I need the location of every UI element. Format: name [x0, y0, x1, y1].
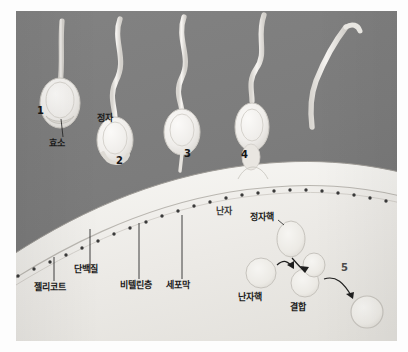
label-sperm: 정자: [97, 114, 113, 123]
label-cell-membrane: 세포막: [166, 281, 190, 290]
label-vitelline-layer: 비텔린층: [120, 281, 152, 290]
figure-screenshot: 1 효소 정자 2 3 4 난자 젤리코트 단백질 비텔린층 세포막 정자핵 난…: [0, 0, 408, 352]
label-protein: 단백질: [74, 265, 98, 274]
step-number-1: 1: [37, 106, 44, 116]
label-egg-nucleus: 난자핵: [238, 293, 262, 302]
fertilization-diagram-svg: [16, 11, 397, 341]
zygote-nucleus-circle: [351, 296, 383, 328]
sperm-nucleus-circle: [277, 221, 305, 257]
label-fusion: 결합: [290, 303, 306, 312]
label-enzyme: 효소: [49, 139, 65, 148]
sperm-3-acrosomal-process: [180, 153, 182, 171]
label-jelly-coat: 젤리코트: [34, 283, 66, 292]
step-number-4: 4: [241, 150, 248, 160]
label-egg: 난자: [216, 207, 232, 216]
step-number-2: 2: [116, 156, 123, 166]
label-sperm-nucleus: 정자핵: [250, 213, 274, 222]
diagram-plate: 1 효소 정자 2 3 4 난자 젤리코트 단백질 비텔린층 세포막 정자핵 난…: [16, 11, 397, 341]
step-number-3: 3: [184, 149, 191, 159]
sperm-1-tail: [60, 21, 62, 85]
egg-nucleus-circle: [246, 258, 276, 288]
sperm-3-head: [164, 109, 200, 155]
step-number-5: 5: [341, 263, 348, 273]
